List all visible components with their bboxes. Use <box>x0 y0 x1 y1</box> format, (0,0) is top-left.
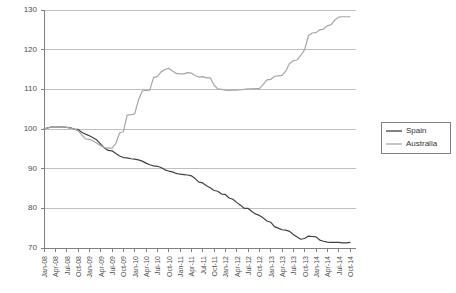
x-tick-label: Jan-09 <box>86 256 93 278</box>
line-chart: 708090100110120130 Jan-08Apr-08Jul-08Oct… <box>0 0 456 293</box>
x-tick-label: Jul-13 <box>290 256 297 275</box>
x-tick-label: Jan-14 <box>313 256 320 278</box>
x-tick-label: Apr-10 <box>143 256 151 277</box>
x-tick-label: Jan-13 <box>268 256 275 278</box>
x-tick-label: Jan-12 <box>222 256 229 278</box>
x-tick-label: Jul-11 <box>200 256 207 275</box>
x-tick-label: Jul-14 <box>336 256 343 275</box>
x-tick-label: Jan-11 <box>177 256 184 277</box>
x-tick-label: Oct-14 <box>347 256 354 277</box>
x-tick-label: Oct-12 <box>256 256 263 277</box>
y-tick-label: 70 <box>28 243 37 252</box>
chart-canvas: 708090100110120130 Jan-08Apr-08Jul-08Oct… <box>0 0 456 293</box>
chart-legend[interactable]: SpainAustralia <box>381 122 450 153</box>
x-tick-label: Jul-10 <box>154 256 161 275</box>
y-tick-label: 110 <box>24 84 37 93</box>
x-tick-label: Oct-08 <box>75 256 82 277</box>
x-tick-label: Jan-10 <box>132 256 139 278</box>
y-tick-label: 90 <box>28 164 37 173</box>
y-tick-label: 100 <box>24 124 38 133</box>
x-tick-label: Apr-14 <box>324 256 332 277</box>
x-tick-label: Oct-13 <box>302 256 309 277</box>
x-tick-label: Jul-12 <box>245 256 252 275</box>
x-tick-label: Oct-09 <box>120 256 127 277</box>
x-tick-label: Oct-10 <box>166 256 173 277</box>
y-tick-label: 120 <box>24 45 38 54</box>
x-tick-label: Apr-08 <box>52 256 60 277</box>
y-tick-label: 80 <box>28 203 37 212</box>
x-tick-label: Oct-11 <box>211 256 218 277</box>
x-tick-label: Apr-12 <box>234 256 242 277</box>
x-tick-label: Apr-11 <box>188 256 196 277</box>
legend-label-australia[interactable]: Australia <box>406 139 438 148</box>
x-tick-label: Jul-09 <box>109 256 116 275</box>
legend-label-spain[interactable]: Spain <box>406 126 426 135</box>
x-tick-label: Apr-09 <box>98 256 106 277</box>
x-tick-label: Apr-13 <box>279 256 287 277</box>
x-tick-label: Jan-08 <box>41 256 48 278</box>
y-tick-label: 130 <box>24 5 38 14</box>
x-tick-label: Jul-08 <box>64 256 71 275</box>
